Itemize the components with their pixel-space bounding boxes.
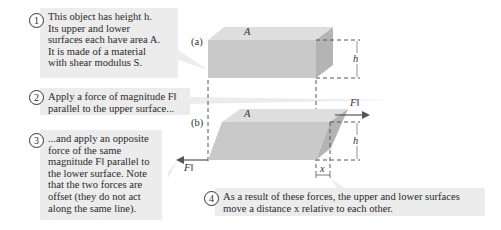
callout-4: 4 As a result of these forces, the upper… bbox=[215, 188, 485, 216]
force-lower-label: F‖ bbox=[184, 162, 193, 173]
force-lower-arrowhead bbox=[176, 156, 184, 164]
block-b bbox=[208, 109, 348, 160]
force-upper-arrowhead bbox=[362, 111, 370, 119]
height-a-label: h bbox=[353, 53, 358, 64]
callout-3-text: ...and apply an opposite force of the sa… bbox=[48, 133, 156, 214]
callout-2: 2 Apply a force of magnitude F‖ parallel… bbox=[40, 88, 190, 115]
area-b-label: A bbox=[244, 108, 250, 119]
callout-3: 3 ...and apply an opposite force of the … bbox=[40, 130, 162, 220]
callout-2-pointer bbox=[190, 97, 395, 104]
step-2-badge: 2 bbox=[29, 90, 44, 105]
step-1-badge: 1 bbox=[29, 13, 44, 28]
callout-4-text: As a result of these forces, the upper a… bbox=[223, 191, 479, 214]
force-upper-label: F‖ bbox=[350, 97, 359, 108]
displacement-label: x bbox=[320, 163, 325, 174]
callout-1-pointer bbox=[178, 50, 208, 70]
step-4-badge: 4 bbox=[204, 191, 219, 206]
panel-a-label: (a) bbox=[191, 36, 203, 47]
step-3-badge: 3 bbox=[29, 133, 44, 148]
block-a bbox=[208, 27, 333, 78]
area-a-label: A bbox=[244, 26, 250, 37]
callout-3-pointer bbox=[168, 160, 178, 178]
panel-b-label: (b) bbox=[191, 117, 203, 128]
callout-1: 1 This object has height h. Its upper an… bbox=[40, 8, 178, 78]
callout-2-text: Apply a force of magnitude F‖ parallel t… bbox=[48, 91, 184, 114]
callout-1-text: This object has height h. Its upper and … bbox=[48, 11, 172, 69]
height-b-label: h bbox=[353, 135, 358, 146]
